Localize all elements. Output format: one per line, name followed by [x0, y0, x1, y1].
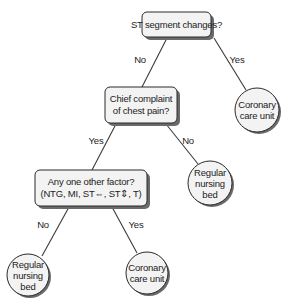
node-text: of chest pain? — [113, 105, 169, 116]
node-text: nursing — [13, 270, 43, 281]
node-text: Regular — [12, 259, 44, 270]
edge-label-q3-yes: Yes — [129, 219, 144, 230]
outcome-node-regular-nursing-bed-2: Regular nursing bed — [7, 254, 51, 298]
node-text: care unit — [240, 110, 275, 121]
edges — [42, 38, 246, 256]
outcome-node-coronary-care-unit-2: Coronary care unit — [126, 252, 170, 296]
node-text: Coronary — [128, 262, 166, 273]
node-text: nursing — [195, 178, 225, 189]
node-text: Chief complaint — [110, 93, 173, 104]
node-text: bed — [202, 189, 217, 200]
edge-label-q2-yes: Yes — [89, 135, 104, 146]
decision-node-chest-pain: Chief complaint of chest pain? — [105, 87, 180, 126]
outcome-node-regular-nursing-bed-1: Regular nursing bed — [188, 161, 234, 207]
edge-label-q2-no: No — [182, 135, 194, 146]
decision-node-other-factor: Any one other factor? (NTG, MI, ST⇔, ST⇕… — [35, 170, 150, 209]
edge-q2-yes — [92, 124, 116, 170]
edge-q3-yes — [112, 207, 137, 253]
edge-label-q3-no: No — [37, 219, 49, 230]
edge-label-q1-no: No — [134, 54, 146, 65]
decision-node-st-segment: ST segment changes? — [131, 12, 222, 40]
node-text: (NTG, MI, ST⇔, ST⇕, T) — [40, 188, 141, 199]
decision-tree-diagram: No Yes Yes No No Yes ST segment changes?… — [0, 0, 291, 306]
node-text: Any one other factor? — [48, 176, 135, 187]
node-text: Regular — [194, 167, 226, 178]
node-text: care unit — [130, 273, 165, 284]
node-text: ST segment changes? — [131, 19, 222, 30]
edge-q3-no — [42, 207, 69, 256]
node-text: Coronary — [238, 99, 276, 110]
outcome-node-coronary-care-unit-1: Coronary care unit — [235, 88, 281, 134]
edge-label-q1-yes: Yes — [230, 54, 245, 65]
node-text: bed — [20, 281, 35, 292]
